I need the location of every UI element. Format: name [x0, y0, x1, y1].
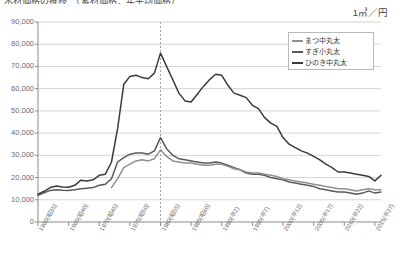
y-axis-tick: 70,000 [0, 61, 34, 70]
legend-item-matsu: まつ中丸太 [292, 35, 370, 46]
y-axis-tick: 20,000 [0, 173, 34, 182]
y-axis-tick: 90,000 [0, 17, 34, 26]
y-axis-tick: 0 [0, 217, 34, 226]
y-axis-tick: 80,000 [0, 39, 34, 48]
legend-swatch-sugi [292, 51, 303, 53]
y-axis-tick: 40,000 [0, 128, 34, 137]
y-axis-tick: 10,000 [0, 195, 34, 204]
y-axis-tick: 50,000 [0, 106, 34, 115]
legend-label-sugi: すぎ小丸太 [305, 46, 340, 57]
legend-swatch-hinoki [292, 62, 303, 64]
legend-item-hinoki: ひのき中丸太 [292, 57, 370, 68]
y-axis-tick: 30,000 [0, 150, 34, 159]
legend-label-matsu: まつ中丸太 [305, 35, 340, 46]
legend-label-hinoki: ひのき中丸太 [305, 57, 347, 68]
chart-legend: まつ中丸太 すぎ小丸太 ひのき中丸太 [288, 32, 374, 70]
legend-swatch-matsu [292, 40, 303, 42]
legend-item-sugi: すぎ小丸太 [292, 46, 370, 57]
y-axis-tick: 60,000 [0, 84, 34, 93]
